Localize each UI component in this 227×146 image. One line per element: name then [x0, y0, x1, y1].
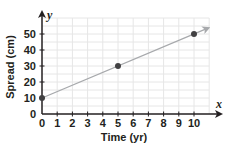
x-axis-variable: x — [215, 97, 222, 111]
y-tick-label: 10 — [24, 92, 36, 104]
x-tick-label: 2 — [69, 117, 75, 129]
x-tick-label: 6 — [130, 117, 136, 129]
x-tick-label: 1 — [54, 117, 60, 129]
data-point — [115, 63, 121, 69]
y-tick-label: 30 — [24, 60, 36, 72]
y-tick-label: 40 — [24, 44, 36, 56]
y-axis-title: Spread (cm) — [4, 35, 16, 99]
x-tick-label: 0 — [39, 117, 45, 129]
x-axis-title: Time (yr) — [101, 131, 148, 143]
series-line — [42, 28, 208, 98]
y-tick-label: 20 — [24, 76, 36, 88]
line-chart: 01234567891001020304050 y x Time (yr) Sp… — [0, 0, 227, 146]
x-tick-label: 10 — [188, 117, 200, 129]
y-tick-label: 0 — [30, 108, 36, 120]
grid — [42, 18, 209, 114]
x-tick-label: 8 — [161, 117, 167, 129]
x-tick-label: 7 — [145, 117, 151, 129]
x-tick-label: 3 — [85, 117, 91, 129]
y-axis-variable: y — [45, 8, 53, 22]
data-line — [42, 28, 208, 98]
y-tick-label: 50 — [24, 28, 36, 40]
x-tick-label: 9 — [176, 117, 182, 129]
data-point — [191, 31, 197, 37]
x-tick-label: 5 — [115, 117, 121, 129]
data-point — [39, 95, 45, 101]
x-tick-label: 4 — [100, 117, 107, 129]
